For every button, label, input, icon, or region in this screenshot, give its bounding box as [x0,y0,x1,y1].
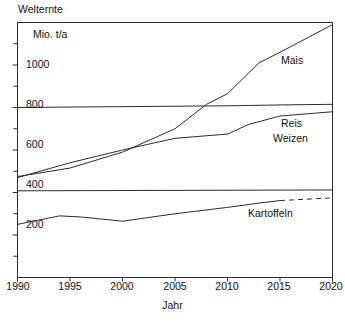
y-tick-label-200: 200 [26,219,44,230]
series-label-kartoffeln: Kartoffeln [248,208,293,219]
series-label-weizen: Weizen [273,133,308,144]
y-tick-label-800: 800 [26,99,44,110]
series-line-weizen [18,104,333,107]
series-line-kartoffeln-projection [280,198,333,201]
series-label-reis: Reis [281,118,302,129]
y-tick-label-1000: 1000 [26,59,49,70]
x-tick-label-2010: 2010 [209,281,245,292]
x-tick-label-2020: 2020 [313,281,345,292]
x-tick-label-1990: 1990 [0,281,36,292]
x-tick-label-2000: 2000 [104,281,140,292]
x-tick-label-2005: 2005 [157,281,193,292]
plot-canvas [0,0,345,323]
series-line-mais [18,25,333,177]
x-tick-label-2015: 2015 [261,281,297,292]
series-line-kartoffeln [18,201,281,225]
x-tick-label-1995: 1995 [52,281,88,292]
y-tick-label-400: 400 [26,179,44,190]
x-axis-title: Jahr [0,300,345,311]
chart-figure: Welternte Mio. t/a 1000 800 600 400 200 … [0,0,345,323]
series-line-weizen-upper [18,190,333,191]
y-tick-label-600: 600 [26,139,44,150]
series-label-mais: Mais [281,55,303,66]
